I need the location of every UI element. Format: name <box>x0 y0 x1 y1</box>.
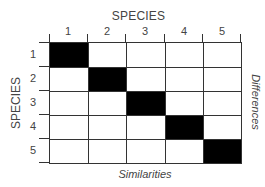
column-tick <box>202 34 203 42</box>
matrix-cell-filled <box>88 67 127 92</box>
matrix-cell <box>88 139 127 164</box>
column-tick <box>87 34 88 42</box>
bottom-axis-label: Similarities <box>49 168 241 180</box>
column-tick <box>240 34 241 42</box>
row-label: 5 <box>28 144 38 156</box>
top-axis-title: SPECIES <box>0 9 265 23</box>
matrix-cell <box>49 115 89 140</box>
column-label: 4 <box>165 25 203 37</box>
matrix-cell <box>88 91 127 116</box>
matrix-cell <box>88 115 127 140</box>
matrix-cell <box>165 139 204 164</box>
left-axis-title: SPECIES <box>9 73 23 133</box>
matrix-cell <box>126 139 166 164</box>
column-label: 3 <box>126 25 164 37</box>
matrix-cell <box>203 115 242 140</box>
matrix-cell-filled <box>203 139 242 164</box>
matrix-cell <box>165 67 204 92</box>
matrix-cell <box>203 91 242 116</box>
matrix-cell <box>165 42 204 68</box>
row-label: 2 <box>28 72 38 84</box>
matrix-cell <box>203 42 242 68</box>
matrix-cell-filled <box>165 115 204 140</box>
matrix-cell <box>49 139 89 164</box>
row-label: 1 <box>28 48 38 60</box>
row-label: 3 <box>28 96 38 108</box>
row-tick <box>39 90 49 91</box>
matrix-cell-filled <box>49 42 89 68</box>
column-label: 1 <box>49 25 87 37</box>
matrix-cell <box>88 42 127 68</box>
matrix-cell <box>49 67 89 92</box>
matrix-cell <box>203 67 242 92</box>
row-tick <box>39 42 49 43</box>
matrix-cell <box>49 91 89 116</box>
row-label: 4 <box>28 120 38 132</box>
column-label: 5 <box>203 25 241 37</box>
column-label: 2 <box>88 25 126 37</box>
row-tick <box>39 66 49 67</box>
matrix-cell <box>126 42 166 68</box>
column-tick <box>49 34 50 42</box>
row-tick <box>39 138 49 139</box>
row-tick <box>39 162 49 163</box>
matrix-cell <box>126 115 166 140</box>
matrix-cell-filled <box>126 91 166 116</box>
row-tick <box>39 114 49 115</box>
column-tick <box>164 34 165 42</box>
column-tick <box>125 34 126 42</box>
matrix-cell <box>126 67 166 92</box>
right-axis-label: Differences <box>250 67 262 137</box>
matrix-cell <box>165 91 204 116</box>
